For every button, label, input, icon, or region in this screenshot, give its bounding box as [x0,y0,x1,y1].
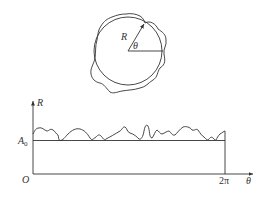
unrolled-profile-figure: R A0 O 2π θ [17,97,253,186]
irregular-profile [91,14,166,93]
origin-label: O [22,174,29,185]
y-axis-label: R [36,97,43,108]
x-axis-label: θ [246,175,251,186]
profile-curve [33,125,225,140]
radius-label: R [120,31,127,42]
baseline-label: A0 [17,135,28,148]
polar-profile-figure: R θ [91,14,166,93]
two-pi-label: 2π [219,175,229,186]
roundness-diagram: R θ R A0 O 2π θ [0,0,273,199]
angle-label: θ [133,40,138,51]
